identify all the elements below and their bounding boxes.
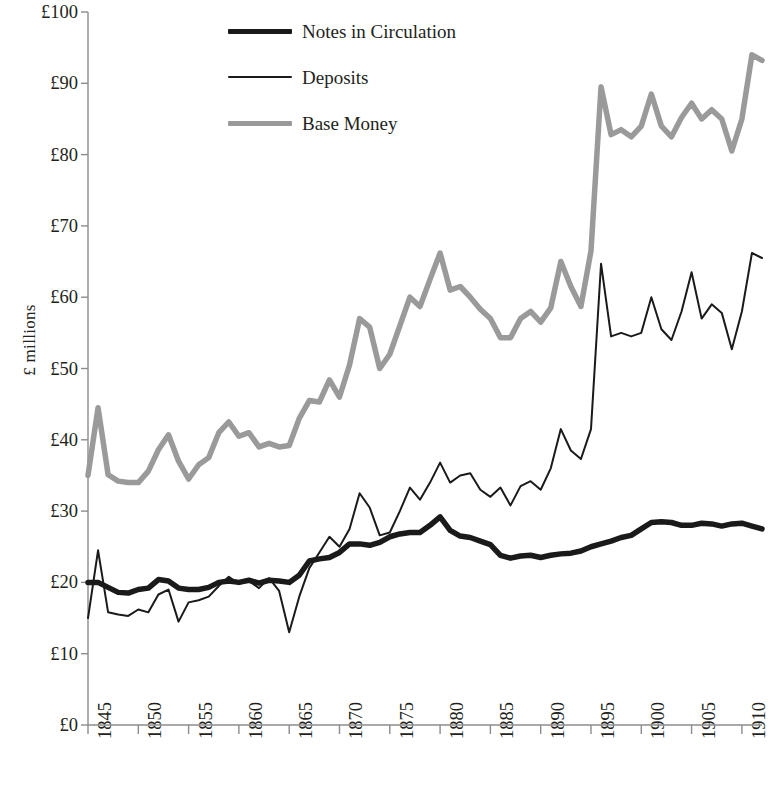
series-line-notes-in-circulation <box>88 517 762 593</box>
series-line-base-money <box>88 55 762 483</box>
plot-area <box>0 0 771 789</box>
chart-container: £ millions £100£90£80£70£60£50£40£30£20£… <box>0 0 771 789</box>
series-line-deposits <box>88 253 762 632</box>
